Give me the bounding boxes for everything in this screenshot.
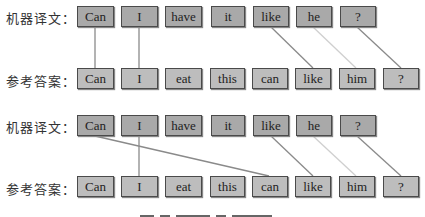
reference-token-box: him xyxy=(339,176,375,197)
machine-token-box: like xyxy=(253,115,289,136)
machine-token-box: Can xyxy=(77,115,114,136)
link-like-like-1 xyxy=(271,27,313,68)
link-like-like-2 xyxy=(271,136,313,176)
reference-token-box: ? xyxy=(383,176,419,197)
machine-token-box: have xyxy=(165,115,202,136)
link-he-him-2 xyxy=(313,136,356,176)
link-can-can-2 xyxy=(95,136,269,176)
reference-token-box: ? xyxy=(383,68,419,89)
machine-token-box: I xyxy=(121,115,158,136)
reference-token-box: this xyxy=(210,68,245,89)
reference-token-box: can xyxy=(252,68,288,89)
machine-token-box: Can xyxy=(77,6,114,27)
reference-token-box: like xyxy=(295,68,331,89)
reference-label-2: 参考答案： xyxy=(6,179,76,198)
machine-token-box: it xyxy=(211,6,245,27)
reference-token-box: Can xyxy=(77,176,114,197)
reference-token-box: him xyxy=(339,68,375,89)
machine-token-box: it xyxy=(211,115,245,136)
reference-token-box: eat xyxy=(165,68,202,89)
machine-token-box: he xyxy=(296,6,332,27)
machine-token-box: ? xyxy=(340,115,376,136)
figure-caption-clipped xyxy=(140,211,300,217)
reference-token-box: like xyxy=(295,176,331,197)
reference-token-box: can xyxy=(252,176,288,197)
link-q-q-2 xyxy=(357,136,401,176)
machine-token-box: like xyxy=(253,6,289,27)
link-q-q-1 xyxy=(357,27,401,68)
machine-token-box: have xyxy=(165,6,202,27)
machine-translation-label-2: 机器译文： xyxy=(6,117,76,136)
machine-token-box: I xyxy=(121,6,158,27)
reference-token-box: Can xyxy=(77,68,114,89)
reference-token-box: I xyxy=(121,68,158,89)
reference-token-box: eat xyxy=(165,176,202,197)
link-he-him-1 xyxy=(313,27,356,68)
reference-token-box: this xyxy=(210,176,245,197)
reference-token-box: I xyxy=(121,176,158,197)
machine-token-box: ? xyxy=(340,6,376,27)
machine-token-box: he xyxy=(296,115,332,136)
